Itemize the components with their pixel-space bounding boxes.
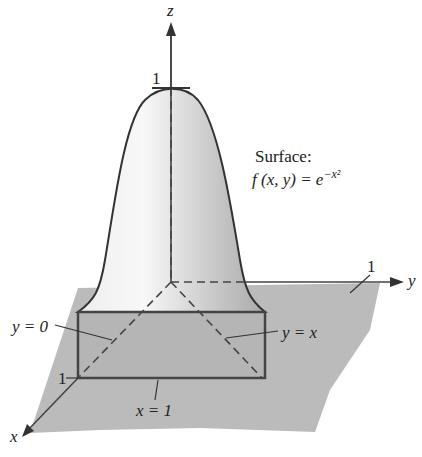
y-tick-1: 1 [367,258,376,275]
surface-formula: f (x, y) = e−x² [252,168,340,188]
diagram-graphics [0,0,422,457]
label-y-eq-x: y = x [282,324,317,341]
x-tick-1: 1 [58,370,67,387]
figure: z 1 Surface: f (x, y) = e−x² y 1 y = 0 y… [0,0,422,457]
label-x-eq-1: x = 1 [136,402,172,419]
z-tick-1: 1 [152,70,161,87]
region-rectangle [78,312,265,378]
z-arrow-icon [166,22,176,36]
label-y-eq-0: y = 0 [12,318,48,335]
y-arrow-icon [390,277,404,287]
x-axis-label: x [10,428,18,445]
y-axis-label: y [408,272,416,289]
surface-title: Surface: [255,148,312,165]
z-axis-label: z [167,2,174,19]
